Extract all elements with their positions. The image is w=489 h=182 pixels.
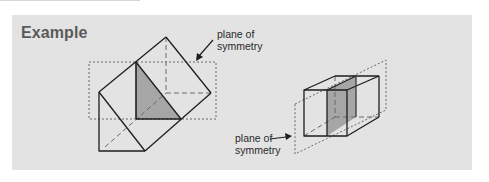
cuboid-plane-label-line1: plane of (235, 133, 281, 145)
prism-plane-label-line2: symmetry (217, 41, 263, 53)
cuboid-plane-label-line2: symmetry (235, 145, 281, 157)
prism-plane-label: plane of symmetry (217, 29, 263, 52)
prism-label-arrow (196, 40, 213, 61)
triangular-prism-figure (89, 37, 216, 151)
cuboid-figure (270, 60, 386, 154)
cuboid-plane-label: plane of symmetry (235, 133, 281, 156)
prism-plane-label-line1: plane of (217, 29, 263, 41)
